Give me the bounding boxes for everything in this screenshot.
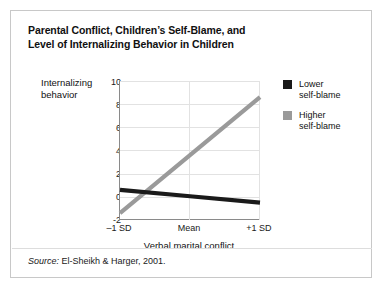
- x-tick-plus-1-sd: +1 SD: [229, 224, 289, 233]
- title-line-2: Level of Internalizing Behavior in Child…: [28, 37, 328, 51]
- page-title: Parental Conflict, Children’s Self-Blame…: [28, 23, 328, 51]
- y-tick-6: 6: [95, 124, 121, 133]
- legend-swatch-lower: [283, 80, 292, 89]
- x-tick-mean: Mean: [159, 224, 219, 233]
- plot-area: [119, 81, 259, 220]
- y-tick-10: 10: [95, 78, 121, 87]
- source-note: Source: El-Sheikh & Harger, 2001.: [28, 256, 166, 266]
- source-citation: El-Sheikh & Harger, 2001.: [59, 256, 166, 266]
- legend-label-higher-line-2: self-blame: [299, 121, 369, 132]
- source-label: Source:: [28, 256, 59, 266]
- legend-item-higher-self-blame: Higher self-blame: [283, 110, 369, 132]
- legend-label-lower-line-1: Lower: [299, 79, 369, 90]
- footer-divider: [12, 248, 372, 249]
- legend: Lower self-blame Higher self-blame: [283, 79, 369, 141]
- series-lines: [120, 81, 260, 220]
- y-tick-0: 0: [95, 193, 121, 202]
- legend-swatch-higher: [283, 111, 292, 120]
- chart-area: Internalizing behavior 10 8 6 4 2 0 -2 –…: [11, 51, 373, 241]
- x-axis-label: Verbal marital conflict: [119, 240, 259, 251]
- y-tick-4: 4: [95, 147, 121, 156]
- y-tick-8: 8: [95, 101, 121, 110]
- figure-frame: Parental Conflict, Children’s Self-Blame…: [10, 10, 372, 278]
- legend-label-higher-line-1: Higher: [299, 110, 369, 121]
- legend-label-lower-line-2: self-blame: [299, 90, 369, 101]
- legend-item-lower-self-blame: Lower self-blame: [283, 79, 369, 101]
- y-axis-label-line-2: behavior: [41, 89, 119, 101]
- y-tick-2: 2: [95, 170, 121, 179]
- title-line-1: Parental Conflict, Children’s Self-Blame…: [28, 23, 328, 37]
- x-tick-minus-1-sd: –1 SD: [89, 224, 149, 233]
